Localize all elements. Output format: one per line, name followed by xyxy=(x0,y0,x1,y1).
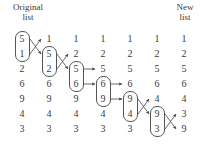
arrow-layer xyxy=(0,0,213,154)
sorting-diagram: Original list New list 51269431526943125… xyxy=(0,0,213,154)
